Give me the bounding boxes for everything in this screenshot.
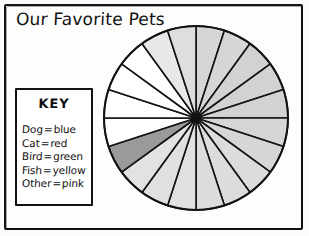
legend-entry-value: blue <box>53 123 76 135</box>
legend-entry-list: Dog=blueCat=redBird=greenFish=yellowOthe… <box>22 123 88 191</box>
legend-entry-label: Dog <box>22 123 44 135</box>
legend-entry-value: green <box>53 150 83 162</box>
legend-heading: KEY <box>17 96 92 111</box>
legend-entry-label: Other <box>22 177 52 189</box>
legend-entry-value: pink <box>62 177 85 189</box>
legend-entry-separator: = <box>51 177 62 189</box>
legend-entry-label: Fish <box>22 164 43 176</box>
legend-entry: Bird=green <box>22 150 89 164</box>
legend-key-box: KEY Dog=blueCat=redBird=greenFish=yellow… <box>15 88 93 206</box>
pie-chart <box>103 24 289 212</box>
legend-entry: Fish=yellow <box>22 164 89 178</box>
pie-chart-svg <box>103 24 289 212</box>
legend-entry: Cat=red <box>22 137 89 151</box>
legend-entry: Dog=blue <box>22 123 89 137</box>
legend-entry-separator: = <box>42 164 53 176</box>
pie-chart-poster: Our Favorite Pets KEY Dog=blueCat=redBir… <box>0 0 309 236</box>
legend-entry-label: Cat <box>22 137 40 149</box>
legend-entry: Other=pink <box>22 177 89 191</box>
legend-entry-label: Bird <box>22 150 43 162</box>
legend-entry-separator: = <box>43 123 54 135</box>
legend-entry-value: red <box>50 137 68 149</box>
legend-entry-value: yellow <box>52 164 86 176</box>
